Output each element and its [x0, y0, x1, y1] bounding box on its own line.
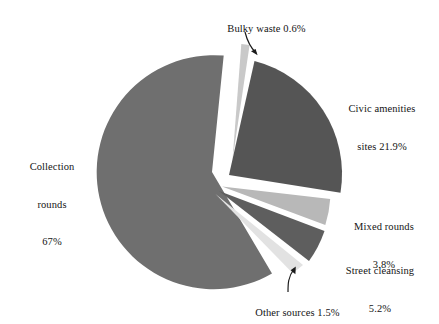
pie-slice-civic-amenities[interactable]	[229, 61, 342, 193]
slice-label-street-cleansing-line1: Street cleansing	[326, 265, 434, 278]
slice-label-collection-rounds-line1: Collection	[6, 161, 98, 174]
slice-label-collection-rounds: Collection rounds 67%	[6, 136, 98, 274]
slice-label-collection-rounds-line2: rounds	[6, 199, 98, 212]
pie-chart: Bulky waste 0.6% Civic amenities sites 2…	[0, 0, 439, 324]
slice-label-civic-amenities-line1: Civic amenities	[330, 103, 434, 116]
slice-label-other-sources-text: Other sources 1.5%	[255, 307, 339, 318]
slice-label-civic-amenities-line2: sites 21.9%	[330, 141, 434, 154]
slice-label-bulky-waste-text: Bulky waste 0.6%	[227, 23, 305, 34]
slice-label-other-sources: Other sources 1.5%	[228, 294, 356, 324]
slice-label-collection-rounds-line3: 67%	[6, 236, 98, 249]
other-sources-leader-arrow	[288, 267, 296, 292]
slice-label-mixed-rounds-line1: Mixed rounds	[334, 221, 434, 234]
slice-label-civic-amenities: Civic amenities sites 21.9%	[330, 78, 434, 178]
slice-label-bulky-waste: Bulky waste 0.6%	[196, 10, 326, 48]
